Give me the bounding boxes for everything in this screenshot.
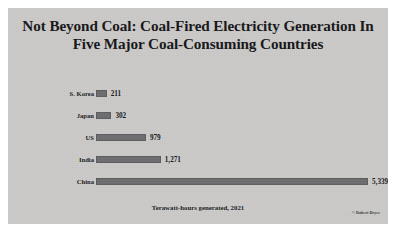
bar-track: 1,271 <box>96 154 181 165</box>
bar <box>96 134 146 142</box>
bar-row: US979 <box>8 132 388 143</box>
bar-value-label: 302 <box>115 112 126 120</box>
bar-category-label: India <box>8 156 94 163</box>
bar-category-label: Japan <box>8 112 94 119</box>
chart-caption: Terawatt-hours generated, 2021 <box>8 204 388 211</box>
bar-plot-area: S. Korea211Japan302US979India1,271China5… <box>8 86 388 198</box>
bar-row: China5,339 <box>8 176 388 187</box>
bar <box>96 90 107 98</box>
bar-row: S. Korea211 <box>8 88 388 99</box>
bar-row: Japan302 <box>8 110 388 121</box>
bar-value-label: 211 <box>111 90 121 98</box>
bar-track: 979 <box>96 132 161 143</box>
bar-category-label: S. Korea <box>8 90 94 97</box>
bar <box>96 156 161 164</box>
bar-track: 211 <box>96 88 121 99</box>
credit-label: © Robert Bryce <box>352 210 380 215</box>
bar-category-label: China <box>8 178 94 185</box>
bar <box>96 112 111 120</box>
bar-category-label: US <box>8 134 94 141</box>
bar-value-label: 1,271 <box>165 156 181 164</box>
bar-value-label: 979 <box>150 134 161 142</box>
bar <box>96 178 368 186</box>
chart-figure: Not Beyond Coal: Coal-Fired Electricity … <box>8 8 388 224</box>
bar-row: India1,271 <box>8 154 388 165</box>
chart-title: Not Beyond Coal: Coal-Fired Electricity … <box>22 17 374 52</box>
bar-track: 5,339 <box>96 176 388 187</box>
bar-track: 302 <box>96 110 126 121</box>
bar-value-label: 5,339 <box>372 178 388 186</box>
